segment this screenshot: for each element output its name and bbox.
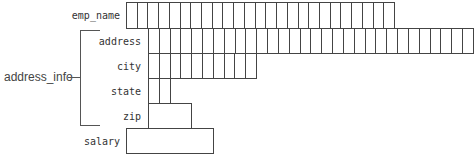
byte-cell bbox=[202, 3, 213, 28]
byte-cell bbox=[387, 29, 398, 53]
byte-cell bbox=[214, 54, 225, 78]
field-box-zip bbox=[148, 103, 192, 129]
byte-cell bbox=[374, 3, 385, 28]
byte-cell bbox=[299, 3, 310, 28]
byte-cell bbox=[138, 3, 149, 28]
byte-cell bbox=[363, 3, 374, 28]
byte-cell bbox=[234, 3, 245, 28]
byte-cell bbox=[160, 29, 171, 53]
byte-cell bbox=[344, 29, 355, 53]
byte-cell bbox=[290, 29, 301, 53]
byte-cell bbox=[225, 54, 236, 78]
byte-cell bbox=[309, 3, 320, 28]
byte-cell bbox=[376, 29, 387, 53]
byte-cell bbox=[159, 3, 170, 28]
byte-cell bbox=[181, 29, 192, 53]
byte-cell bbox=[127, 129, 213, 153]
byte-cell bbox=[149, 104, 191, 128]
field-label-salary: salary bbox=[10, 136, 120, 148]
byte-cell bbox=[431, 29, 442, 53]
byte-cell bbox=[203, 54, 214, 78]
byte-cell bbox=[331, 3, 342, 28]
byte-cell bbox=[341, 3, 352, 28]
byte-cell bbox=[366, 29, 377, 53]
byte-cell bbox=[311, 29, 322, 53]
byte-cell bbox=[257, 29, 268, 53]
byte-cell bbox=[127, 3, 138, 28]
byte-cell bbox=[149, 79, 160, 103]
byte-cell bbox=[452, 29, 463, 53]
byte-cell bbox=[245, 3, 256, 28]
byte-cell bbox=[181, 3, 192, 28]
byte-cell bbox=[203, 29, 214, 53]
byte-cell bbox=[236, 29, 247, 53]
byte-cell bbox=[409, 29, 420, 53]
bracket-vertical bbox=[80, 30, 81, 126]
byte-cell bbox=[352, 3, 363, 28]
byte-cell bbox=[384, 3, 394, 28]
byte-cell bbox=[288, 3, 299, 28]
byte-cell bbox=[322, 29, 333, 53]
byte-cell bbox=[246, 29, 257, 53]
field-box-state bbox=[148, 78, 171, 104]
byte-cell bbox=[266, 3, 277, 28]
byte-cell bbox=[181, 54, 192, 78]
byte-cell bbox=[463, 29, 473, 53]
field-label-state: state bbox=[31, 86, 141, 98]
byte-cell bbox=[277, 3, 288, 28]
byte-cell bbox=[160, 54, 171, 78]
byte-cell bbox=[192, 54, 203, 78]
byte-cell bbox=[268, 29, 279, 53]
byte-cell bbox=[320, 3, 331, 28]
bracket-top bbox=[80, 30, 100, 31]
group-label-address-info: address_info bbox=[4, 70, 73, 84]
byte-cell bbox=[441, 29, 452, 53]
byte-cell bbox=[171, 29, 182, 53]
bracket-bottom bbox=[80, 125, 100, 126]
byte-cell bbox=[170, 3, 181, 28]
byte-cell bbox=[214, 29, 225, 53]
byte-cell bbox=[192, 29, 203, 53]
byte-cell bbox=[160, 79, 170, 103]
field-box-address bbox=[148, 28, 474, 54]
byte-cell bbox=[355, 29, 366, 53]
field-label-zip: zip bbox=[31, 111, 141, 123]
byte-cell bbox=[149, 29, 160, 53]
field-box-emp-name bbox=[126, 2, 395, 29]
byte-cell bbox=[235, 54, 246, 78]
byte-cell bbox=[191, 3, 202, 28]
byte-cell bbox=[246, 54, 256, 78]
byte-cell bbox=[279, 29, 290, 53]
byte-cell bbox=[213, 3, 224, 28]
field-box-city bbox=[148, 53, 257, 79]
field-label-emp-name: emp_name bbox=[10, 10, 120, 22]
field-label-address: address bbox=[31, 36, 141, 48]
byte-cell bbox=[171, 54, 182, 78]
byte-cell bbox=[256, 3, 267, 28]
byte-cell bbox=[301, 29, 312, 53]
field-box-salary bbox=[126, 128, 214, 154]
byte-cell bbox=[225, 29, 236, 53]
byte-cell bbox=[398, 29, 409, 53]
byte-cell bbox=[149, 54, 160, 78]
byte-cell bbox=[333, 29, 344, 53]
byte-cell bbox=[148, 3, 159, 28]
byte-cell bbox=[223, 3, 234, 28]
byte-cell bbox=[420, 29, 431, 53]
